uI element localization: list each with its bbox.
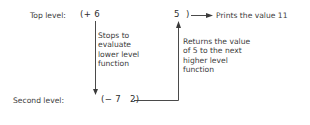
down-annotation-line: Stops to xyxy=(98,31,139,40)
output-note: Prints the value 11 xyxy=(216,11,288,20)
top-level-expression-close: ) xyxy=(186,10,190,19)
return-path-line xyxy=(134,26,179,101)
right-arrowhead-icon xyxy=(206,13,213,18)
up-annotation: Returns the value of 5 to the next highe… xyxy=(183,37,250,75)
up-arrowhead-icon xyxy=(176,21,181,28)
top-level-label: Top level: xyxy=(30,11,66,20)
down-annotation-line: evaluate xyxy=(98,40,139,49)
top-level-expression-open: (+ 6 xyxy=(80,10,100,19)
second-level-label: Second level: xyxy=(13,96,64,105)
up-annotation-line: function xyxy=(183,65,250,74)
up-annotation-line: Returns the value xyxy=(183,37,250,46)
down-annotation-line: function xyxy=(98,59,139,68)
second-level-expression: (− 7 2) xyxy=(101,95,139,104)
down-annotation: Stops to evaluate lower level function xyxy=(98,31,139,69)
up-annotation-line: of 5 to the next xyxy=(183,46,250,55)
up-annotation-line: higher level xyxy=(183,56,250,65)
returned-value: 5 xyxy=(174,10,180,19)
down-arrowhead-icon xyxy=(93,89,98,95)
down-annotation-line: lower level xyxy=(98,50,139,59)
